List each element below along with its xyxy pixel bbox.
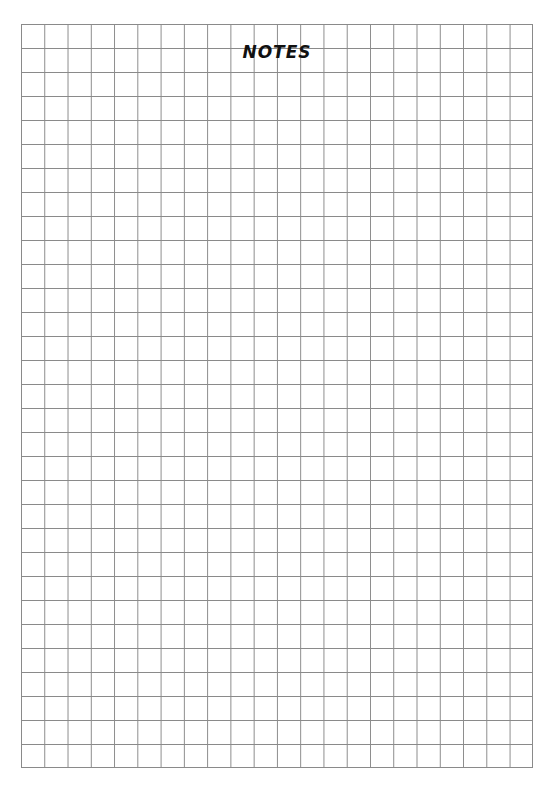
page-title: NOTES bbox=[0, 40, 554, 64]
page-title-text: NOTES bbox=[240, 42, 313, 62]
grid-area bbox=[21, 24, 533, 768]
notes-page: NOTES bbox=[0, 0, 554, 793]
